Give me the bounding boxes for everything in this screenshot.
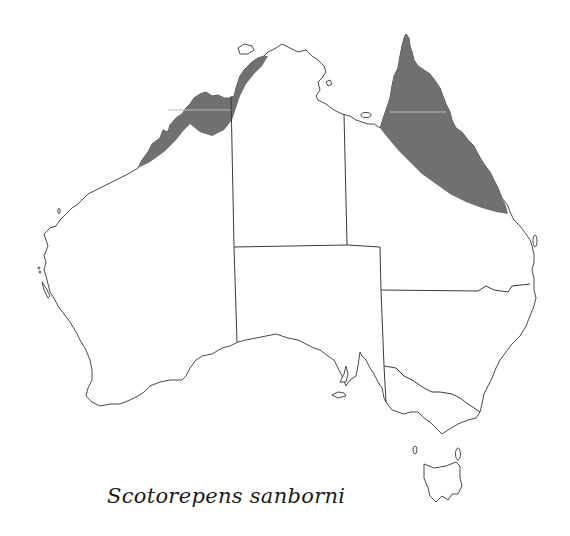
island-melville [238,44,254,54]
species-name-caption: Scotorepens sanborni [107,484,345,508]
island-king [413,446,417,454]
island-flinders [456,448,461,460]
mainland-coastline [44,34,536,434]
tasmania [424,462,462,502]
island-mornington [361,113,371,118]
island-small-west-2 [39,271,41,273]
island-small-west [38,267,40,269]
island-fraser [533,235,537,247]
island-groote [326,80,332,86]
island-barrow [58,209,60,214]
island-kangaroo [332,392,346,398]
distribution-map [0,0,570,536]
